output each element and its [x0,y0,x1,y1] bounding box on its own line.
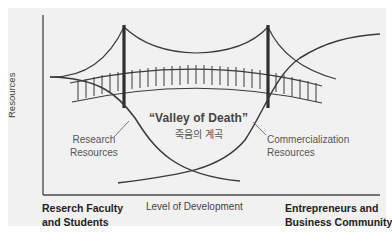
right-group-line2: Business Community [285,215,392,229]
commercialization-resources-curve [118,34,380,183]
bridge-cables [50,27,336,79]
right-group-label: Entrepreneurs and Business Community [285,201,392,229]
left-group-line2: and Students [42,215,123,229]
research-label-line1: Research [70,133,118,146]
valley-of-death-korean-label: 죽음의 계곡 [175,126,223,141]
commercialization-label-line1: Commercialization [267,133,349,146]
suspension-bridge-icon [50,25,336,108]
left-group-label: Reserch Faculty and Students [42,201,123,229]
research-label-line2: Resources [70,146,118,159]
commercialization-label-line2: Resources [267,146,349,159]
right-group-line1: Entrepreneurs and [285,201,392,215]
axes [43,15,380,195]
deck-hatches [78,65,316,102]
y-axis-label: Resources [6,73,17,118]
x-axis-label: Level of Development [146,201,243,212]
valley-of-death-label: “Valley of Death” [149,111,248,125]
left-group-line1: Reserch Faculty [42,201,123,215]
commercialization-resources-label: Commercialization Resources [267,133,349,159]
commercialization-pointer [253,122,266,135]
research-resources-label: Research Resources [70,133,118,159]
